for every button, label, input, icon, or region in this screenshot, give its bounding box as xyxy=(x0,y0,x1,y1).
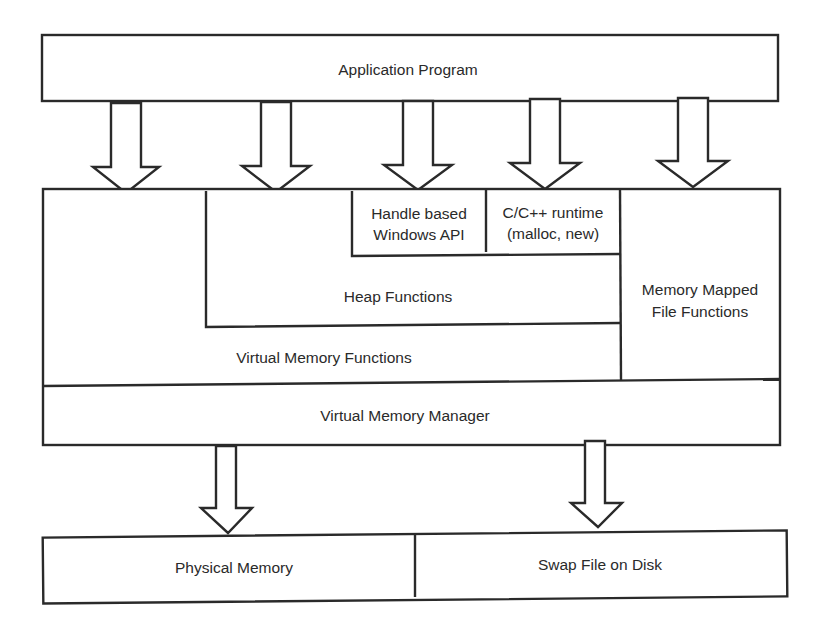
memory-architecture-diagram: Application Program Memory Mapped File F… xyxy=(0,0,815,630)
memory-mapped-divider xyxy=(620,189,621,380)
arrow-to-c-runtime xyxy=(510,99,580,189)
arrow-to-physical-memory xyxy=(201,446,252,533)
c-runtime-line1: C/C++ runtime xyxy=(503,204,604,221)
handle-based-api-line1: Handle based xyxy=(371,205,467,222)
c-runtime-line2: (malloc, new) xyxy=(507,225,599,242)
memory-mapped-label-line2: File Functions xyxy=(652,303,749,320)
arrow-to-handle-based-api xyxy=(384,101,452,190)
swap-file-label: Swap File on Disk xyxy=(538,556,662,573)
virtual-memory-functions-label: Virtual Memory Functions xyxy=(236,349,412,366)
application-program-label: Application Program xyxy=(338,61,478,78)
handle-based-api-line2: Windows API xyxy=(373,226,464,243)
memory-mapped-label-line1: Memory Mapped xyxy=(642,281,758,298)
heap-functions-label: Heap Functions xyxy=(344,288,453,305)
arrow-to-virtual-memory-functions xyxy=(93,103,159,193)
virtual-memory-manager-label: Virtual Memory Manager xyxy=(320,407,489,424)
arrow-to-heap-functions xyxy=(242,102,310,192)
arrow-to-memory-mapped xyxy=(658,98,728,187)
arrow-to-swap-file xyxy=(571,441,622,527)
physical-memory-label: Physical Memory xyxy=(175,559,293,576)
